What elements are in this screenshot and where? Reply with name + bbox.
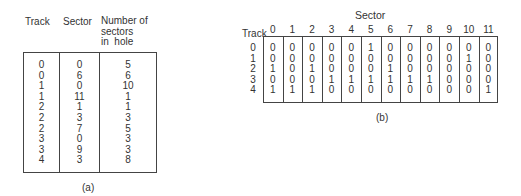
table-b-column-header: 6 bbox=[381, 24, 401, 35]
table-b-cell: 1 bbox=[283, 85, 303, 96]
table-a-header-track: Track bbox=[25, 16, 50, 27]
table-b-cell: 0 bbox=[439, 64, 459, 75]
table-b-cell: 1 bbox=[361, 43, 381, 54]
table-b-cell: 1 bbox=[263, 64, 283, 75]
table-b-cell: 0 bbox=[341, 85, 361, 96]
table-b-cell: 1 bbox=[302, 85, 322, 96]
table-a-cell: 3 bbox=[100, 113, 156, 124]
table-b-cell: 0 bbox=[400, 64, 420, 75]
table-a-cell: 0 bbox=[60, 60, 99, 71]
table-b-cell: 0 bbox=[283, 64, 303, 75]
table-b-track-label: 2 bbox=[247, 64, 259, 75]
table-b-column-header: 8 bbox=[420, 24, 440, 35]
table-b-cell: 0 bbox=[361, 85, 381, 96]
table-b-column-header: 1 bbox=[283, 24, 303, 35]
table-b-sector-title: Sector bbox=[355, 9, 385, 21]
table-b-column-header: 4 bbox=[341, 24, 361, 35]
table-b-track-label: 0 bbox=[247, 43, 259, 54]
table-b-cell: 1 bbox=[381, 64, 401, 75]
table-b-cell: 0 bbox=[322, 85, 342, 96]
table-b-cell: 0 bbox=[479, 43, 499, 54]
table-b-cell: 0 bbox=[400, 85, 420, 96]
table-b-cell: 0 bbox=[381, 43, 401, 54]
table-b-column-header: 7 bbox=[400, 24, 420, 35]
table-b-cell: 0 bbox=[420, 43, 440, 54]
table-a-header-number-of-sectors: Number of sectors in hole bbox=[101, 16, 161, 48]
table-a-track-column: 0011222334 bbox=[24, 60, 59, 166]
table-b-track-label: 4 bbox=[247, 85, 259, 96]
table-b-cell: 1 bbox=[263, 85, 283, 96]
table-a-cell: 3 bbox=[60, 155, 99, 166]
table-b-cell: 0 bbox=[263, 43, 283, 54]
table-a-cell: 0 bbox=[24, 60, 59, 71]
table-a-cell: 4 bbox=[24, 155, 59, 166]
table-b-column-headers: 01234567891011 bbox=[263, 24, 498, 36]
table-b-cell: 1 bbox=[479, 85, 499, 96]
table-b-cell: 0 bbox=[439, 43, 459, 54]
header-line: in hole bbox=[101, 37, 161, 48]
table-a: 0011222334 06011137093 56101135338 bbox=[23, 52, 157, 173]
table-b-cell: 0 bbox=[283, 43, 303, 54]
table-b-cell: 0 bbox=[322, 64, 342, 75]
table-b-cell: 0 bbox=[381, 85, 401, 96]
table-a-cell: 2 bbox=[24, 113, 59, 124]
table-b-caption: (b) bbox=[376, 112, 388, 123]
table-b: 0000010000000000000000101010001000000001… bbox=[263, 36, 498, 103]
table-b-cell: 0 bbox=[361, 64, 381, 75]
table-a-cell: 3 bbox=[60, 113, 99, 124]
table-b-column-header: 3 bbox=[322, 24, 342, 35]
table-a-cell: 8 bbox=[100, 155, 156, 166]
table-b-column-header: 5 bbox=[361, 24, 381, 35]
table-b-cell: 0 bbox=[479, 64, 499, 75]
table-a-cell: 5 bbox=[100, 60, 156, 71]
table-b-column-header: 10 bbox=[459, 24, 479, 35]
table-b-column-header: 2 bbox=[302, 24, 322, 35]
table-b-track-labels: 01234 bbox=[247, 43, 259, 96]
table-b-cell: 0 bbox=[341, 43, 361, 54]
table-a-caption: (a) bbox=[82, 182, 94, 193]
table-b-cell: 0 bbox=[420, 64, 440, 75]
table-b-column-header: 9 bbox=[439, 24, 459, 35]
table-b-cell: 0 bbox=[459, 64, 479, 75]
table-b-column-header: 11 bbox=[479, 24, 499, 35]
table-b-cell: 1 bbox=[302, 64, 322, 75]
table-b-cell: 0 bbox=[400, 43, 420, 54]
table-b-cell: 0 bbox=[322, 43, 342, 54]
table-b-cell: 0 bbox=[341, 64, 361, 75]
table-a-count-column: 56101135338 bbox=[100, 60, 156, 166]
header-line: Number of bbox=[101, 16, 161, 27]
table-b-cell: 0 bbox=[459, 85, 479, 96]
table-b-cell: 0 bbox=[420, 85, 440, 96]
table-b-column-header: 0 bbox=[263, 24, 283, 35]
table-b-cell: 0 bbox=[302, 43, 322, 54]
table-b-cell: 0 bbox=[439, 85, 459, 96]
table-b-cell: 0 bbox=[459, 43, 479, 54]
table-a-header-sector: Sector bbox=[63, 16, 92, 27]
table-a-sector-column: 06011137093 bbox=[60, 60, 99, 166]
